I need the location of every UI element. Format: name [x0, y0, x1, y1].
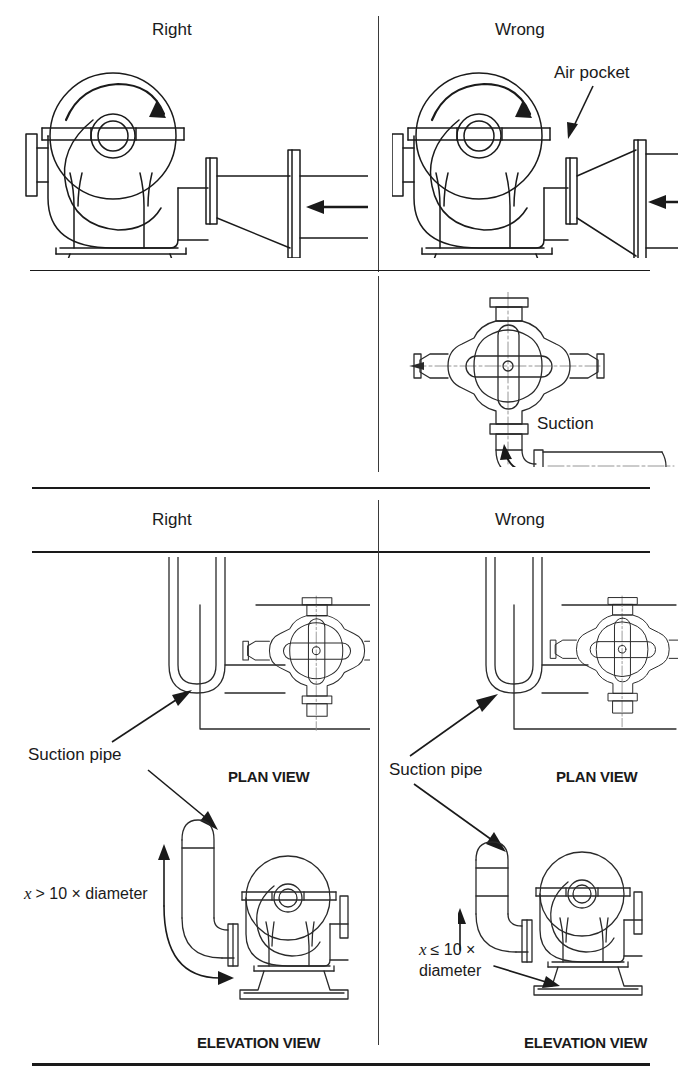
bottom-left-suction-pipe-label: Suction pipe [28, 745, 122, 765]
bottom-right-header: Wrong [495, 510, 545, 530]
top-section-vertical-divider [378, 16, 379, 272]
section-separator-rule [32, 487, 650, 489]
top-right-header: Wrong [495, 20, 545, 40]
plan-view-suction-elbow-drawing [400, 292, 678, 467]
distance-body-right-line1: ≤ 10 × [431, 941, 476, 958]
pump-eccentric-reducer-drawing [18, 58, 368, 258]
bottom-left-elevation-view-drawing [150, 818, 370, 1030]
bottom-right-suction-leader-up [408, 690, 508, 758]
pump-concentric-reducer-drawing [392, 58, 678, 258]
air-pocket-leader-arrow [560, 84, 610, 142]
bottom-left-header: Right [152, 510, 192, 530]
distance-variable-left: x [24, 884, 32, 903]
bottom-header-rule [32, 551, 650, 553]
distance-body-left: > 10 × diameter [36, 885, 148, 902]
bottom-left-distance-note: x> 10 × diameter [24, 884, 148, 904]
bottom-right-distance-note: x≤ 10 × diameter [419, 940, 481, 980]
suction-label: Suction [537, 414, 594, 434]
bottom-right-elevation-view-drawing [458, 838, 678, 1030]
plan-row-vertical-divider [378, 276, 379, 472]
diagram-page: Right Wrong [0, 0, 678, 1081]
air-pocket-label: Air pocket [554, 63, 630, 83]
bottom-closing-rule [32, 1063, 650, 1066]
bottom-right-plan-view-label: PLAN VIEW [556, 768, 638, 785]
distance-body-right-line2: diameter [419, 962, 481, 980]
bottom-right-suction-pipe-label: Suction pipe [389, 760, 483, 780]
bottom-left-plan-view-label: PLAN VIEW [228, 768, 310, 785]
bottom-section-vertical-divider [378, 500, 379, 1045]
bottom-left-suction-leader-up [110, 688, 200, 744]
top-inner-divider [30, 270, 650, 271]
top-left-header: Right [152, 20, 192, 40]
bottom-right-elevation-view-label: ELEVATION VIEW [524, 1034, 647, 1051]
bottom-left-elevation-view-label: ELEVATION VIEW [197, 1034, 320, 1051]
distance-variable-right: x [419, 940, 427, 959]
